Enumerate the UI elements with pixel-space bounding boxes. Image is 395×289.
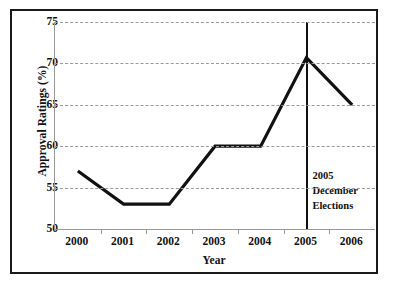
gridline [55,63,375,64]
x-axis-tick-labels: 2000200120022003200420052006 [54,235,374,253]
chart-frame: Approval Ratings (%) 505560657075 2005 D… [10,9,378,274]
gridline [55,146,375,147]
x-tick-mark [329,229,330,234]
plot-area: 2005 December Elections [54,22,375,230]
x-tick-mark [284,229,285,234]
approval-ratings-line [78,58,352,205]
gridline [55,22,375,23]
gridline [55,105,375,106]
figure-container: Approval Ratings (%) 505560657075 2005 D… [0,0,395,289]
election-annotation: 2005 December Elections [312,168,357,213]
x-axis-title: Year [54,254,374,266]
annotation-line-2: December [312,183,357,198]
x-tick-mark [238,229,239,234]
gridline [55,188,375,189]
election-event-line [306,22,308,229]
x-tick-label: 2006 [321,235,381,247]
annotation-line-1: 2005 [312,168,357,183]
x-tick-mark [192,229,193,234]
x-tick-mark [146,229,147,234]
annotation-line-3: Elections [312,198,357,213]
x-tick-mark [101,229,102,234]
figure-caption [10,280,380,289]
